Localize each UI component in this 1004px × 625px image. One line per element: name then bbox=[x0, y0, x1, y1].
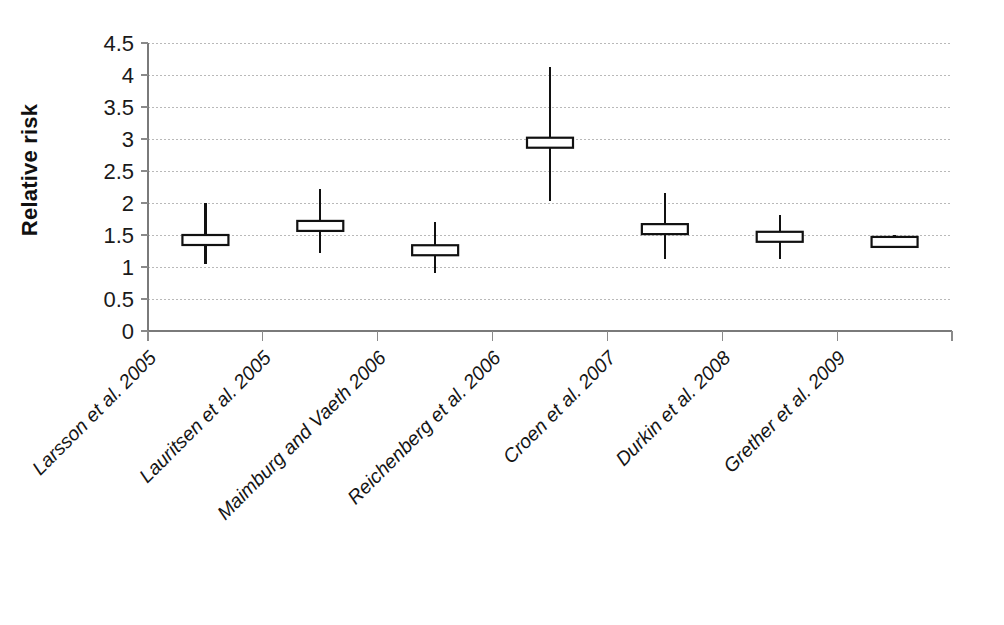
data-marker bbox=[182, 203, 228, 264]
y-tick-label: 3.5 bbox=[103, 95, 134, 120]
data-marker bbox=[527, 67, 573, 201]
y-tick-label: 2 bbox=[122, 191, 134, 216]
data-markers bbox=[182, 67, 917, 274]
estimate-box bbox=[182, 235, 228, 245]
y-tick-label: 3 bbox=[122, 127, 134, 152]
data-marker bbox=[297, 189, 343, 253]
y-tick-label: 0 bbox=[122, 319, 134, 344]
data-marker bbox=[412, 222, 458, 273]
y-tick-label: 4 bbox=[122, 63, 134, 88]
x-category-label: Larsson et al. 2005 bbox=[27, 346, 160, 479]
data-marker bbox=[872, 235, 918, 247]
x-category-label: Croen et al. 2007 bbox=[498, 345, 620, 467]
data-marker bbox=[757, 215, 803, 259]
relative-risk-box-plot: Relative risk 00.511.522.533.544.5 Larss… bbox=[0, 0, 1004, 625]
x-category-label: Durkin et al. 2008 bbox=[611, 346, 735, 470]
estimate-box bbox=[527, 138, 573, 148]
estimate-box bbox=[297, 221, 343, 231]
x-category-label: Grether et al. 2009 bbox=[719, 346, 850, 477]
y-tick-label: 0.5 bbox=[103, 287, 134, 312]
estimate-box bbox=[872, 237, 918, 247]
estimate-box bbox=[412, 245, 458, 255]
y-tick-label: 1.5 bbox=[103, 223, 134, 248]
estimate-box bbox=[757, 232, 803, 242]
y-axis-tick-labels: 00.511.522.533.544.5 bbox=[103, 31, 134, 344]
y-tick-label: 2.5 bbox=[103, 159, 134, 184]
x-axis bbox=[148, 331, 952, 341]
y-axis-ticks bbox=[141, 43, 148, 331]
estimate-box bbox=[642, 224, 688, 234]
y-tick-label: 4.5 bbox=[103, 31, 134, 56]
x-axis-category-labels: Larsson et al. 2005Lauritsen et al. 2005… bbox=[27, 345, 849, 523]
y-tick-label: 1 bbox=[122, 255, 134, 280]
plot-canvas: 00.511.522.533.544.5 Larsson et al. 2005… bbox=[0, 0, 1004, 625]
